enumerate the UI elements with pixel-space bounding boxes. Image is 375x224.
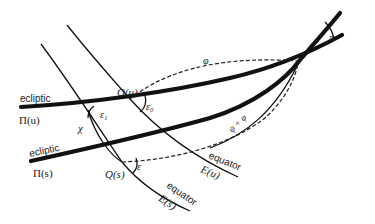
angle-eps-label: ε	[137, 161, 141, 172]
ecliptic-s-symbol: Π(s)	[33, 167, 53, 180]
ecliptic-u-label: ecliptic	[20, 93, 51, 104]
angle-eps0-label: ε₀	[146, 101, 154, 112]
angle-eps1-label: ε₁	[100, 109, 107, 120]
equator-u-symbol: E(u)	[198, 162, 222, 182]
psi-phi-arc	[122, 62, 298, 162]
ecliptic-u-symbol: Π(u)	[19, 114, 40, 127]
angle-chi-label: χ	[77, 122, 84, 134]
ecliptic-equator-diagram: ecliptic Π(u) ecliptic Π(s) Q(u) Q(s) ε₀…	[0, 0, 375, 224]
node-u-label: Q(u)	[117, 86, 138, 99]
node-s-label: Q(s)	[105, 168, 125, 181]
arc-phi-label: φ	[203, 55, 209, 66]
